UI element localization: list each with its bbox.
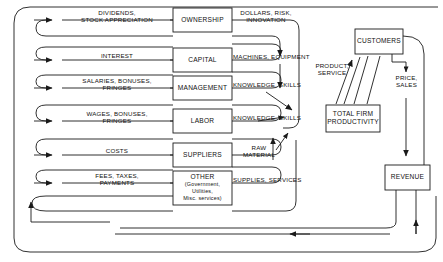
bottom-left-riser-arrow xyxy=(31,202,110,222)
box-revenue xyxy=(385,165,430,190)
return-loop-salaries xyxy=(36,75,173,88)
diagram-canvas: OWNERSHIP CAPITAL MANAGEMENT LABOR SUPPL… xyxy=(0,0,443,262)
box-capital xyxy=(173,48,232,72)
box-management xyxy=(173,76,232,100)
box-total-firm-productivity xyxy=(326,105,380,132)
arrow-knowledge-labor-to-tfp xyxy=(258,117,284,121)
arrow-raw-material-to-tfp xyxy=(276,133,288,150)
loop-in-dollars-risk xyxy=(232,36,280,56)
uturn-machines xyxy=(232,44,281,60)
return-loop-fees xyxy=(36,170,173,183)
box-other xyxy=(173,171,232,205)
return-loop-interest xyxy=(36,47,173,60)
uturn-raw-material xyxy=(232,139,281,155)
arrow-customers-to-price xyxy=(392,54,406,72)
line-product-service-3 xyxy=(354,56,368,104)
return-loop-bottom xyxy=(32,196,173,211)
flow-diagram-svg xyxy=(0,0,443,262)
uturn-supplies-services xyxy=(232,167,281,183)
box-suppliers xyxy=(173,143,232,167)
return-loop-costs xyxy=(36,139,173,155)
box-labor xyxy=(173,109,232,133)
line-product-service-2 xyxy=(344,57,360,104)
return-loop-wages xyxy=(36,105,173,121)
arrow-product-service-1 xyxy=(336,60,352,104)
line-product-service-4 xyxy=(367,56,380,104)
box-ownership xyxy=(173,8,232,32)
box-customers xyxy=(355,29,403,54)
uturn-knowledge-mgmt xyxy=(232,72,281,88)
line-other-to-tfp-riser xyxy=(232,140,296,211)
return-loop-dividends xyxy=(36,20,173,36)
